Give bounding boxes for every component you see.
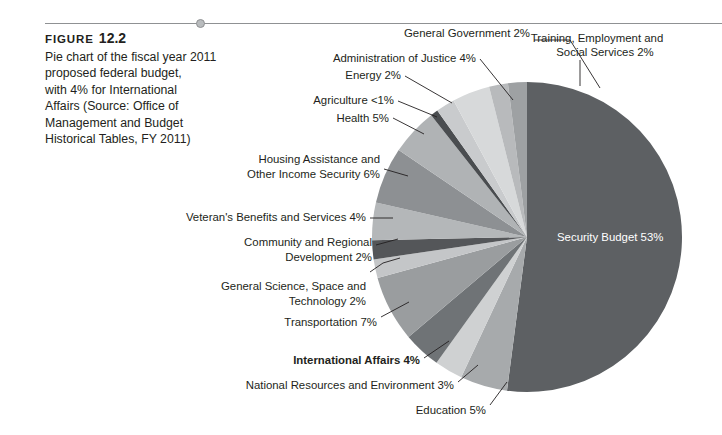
label-science-line2: Technology 2% [289, 295, 366, 307]
label-security-budget: Security Budget 53% [557, 231, 663, 243]
label-agriculture: Agriculture <1% [313, 94, 394, 106]
label-international-affairs: International Affairs 4% [293, 354, 420, 366]
leader-agriculture [398, 101, 437, 117]
label-education: Education 5% [416, 404, 486, 416]
label-training-employment-line1: Training, Employment and [531, 32, 664, 44]
leader-energy [405, 76, 452, 103]
label-natural-resources: National Resources and Environment 3% [246, 379, 454, 391]
label-general-government: General Government 2% [404, 27, 530, 39]
label-housing-line1: Housing Assistance and [258, 153, 380, 165]
pie-chart: General Government 2% Training, Employme… [0, 0, 722, 435]
label-energy: Energy 2% [345, 69, 401, 81]
label-training-employment-line2: Social Services 2% [556, 46, 654, 58]
label-transportation: Transportation 7% [284, 316, 377, 328]
label-community-line1: Community and Regional [244, 236, 372, 248]
label-administration-justice: Administration of Justice 4% [333, 52, 476, 64]
figure-page: FIGURE12.2 Pie chart of the fiscal year … [0, 0, 722, 435]
label-veterans: Veteran's Benefits and Services 4% [186, 211, 366, 223]
label-health: Health 5% [336, 112, 389, 124]
label-science-line1: General Science, Space and [221, 280, 366, 292]
label-housing-line2: Other Income Security 6% [247, 168, 380, 180]
label-community-line2: Development 2% [285, 251, 372, 263]
